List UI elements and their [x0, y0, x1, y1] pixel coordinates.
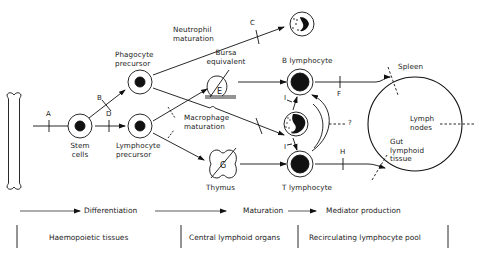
bursa-letter-e: E [217, 87, 222, 96]
lymph-nodes-label-line1: Lymph [410, 114, 434, 123]
marker-i-bottom: I [284, 143, 286, 151]
gut-lymphoid-tissue-label: Gut lymphoid tissue [390, 138, 424, 164]
spleen-label: Spleen [398, 62, 423, 71]
neutrophil-maturation-label: Neutrophil maturation [173, 25, 214, 43]
macrophage-maturation-label: Macrophage maturation [184, 113, 229, 131]
lymphocyte-label-line2: precursor [116, 150, 161, 159]
lymph-nodes-label-line2: nodes [410, 123, 434, 132]
stem-cells-label-line1: Stem [66, 141, 94, 150]
marker-c: C [250, 19, 255, 27]
axis-mediator-production: Mediator production [326, 206, 401, 215]
phagocyte-precursor-icon [128, 70, 152, 94]
i-bottom-tick [287, 144, 292, 145]
lymphocyte-precursor-icon [128, 114, 152, 138]
lymph-nodes-label: Lymph nodes [410, 114, 434, 132]
bone-icon [7, 93, 21, 190]
gut-label-line3: tissue [390, 155, 424, 164]
bursa-label-line1: Bursa [200, 48, 252, 57]
lymphocyte-label-line1: Lymphocyte [116, 141, 161, 150]
phagocyte-precursor-label: Phagocyte precursor [115, 50, 154, 68]
axis-differentiation: Differentiation [84, 206, 137, 215]
thymus-letter-g: G [220, 161, 226, 170]
stem-cells-label-line2: cells [66, 150, 94, 159]
block-thymus-tick [168, 130, 174, 138]
marker-b: B [97, 94, 102, 102]
marker-i-top: I [284, 94, 286, 102]
marker-d: D [106, 110, 111, 118]
b-lymphocyte-icon [287, 69, 313, 95]
neutrophil-icon [290, 12, 314, 36]
marker-f: F [337, 90, 341, 98]
t-lymphocyte-icon [287, 151, 313, 177]
marker-question: ? [348, 119, 352, 127]
band-haemopoietic-tissues: Haemopoietic tissues [49, 233, 128, 242]
band-central-lymphoid-organs: Central lymphoid organs [189, 233, 280, 242]
axis-maturation: Maturation [243, 206, 283, 215]
b-lymphocyte-label: B lymphocyte [282, 56, 333, 65]
macrophage-label-line1: Macrophage [184, 113, 229, 122]
macrophage-label-line2: maturation [184, 122, 229, 131]
marker-a: A [46, 110, 51, 118]
arrow-b-to-spleen [315, 77, 390, 82]
arrow-macrophage-to-b [293, 97, 297, 110]
bursa-label-line2: equivalent [200, 57, 252, 66]
neutrophil-label-line1: Neutrophil [173, 25, 214, 34]
lymphocyte-precursor-label: Lymphocyte precursor [116, 141, 161, 159]
arc-t-to-b [312, 95, 329, 151]
stem-cell-icon [68, 114, 92, 138]
phagocyte-label-line2: precursor [115, 59, 154, 68]
phagocyte-label-line1: Phagocyte [115, 50, 154, 59]
stem-cells-label: Stem cells [66, 141, 94, 159]
arrow-macrophage-to-t [293, 138, 297, 150]
marker-h: H [340, 148, 345, 156]
thymus-label: Thymus [206, 183, 235, 192]
bursa-equivalent-label: Bursa equivalent [200, 48, 252, 66]
arrow-t-to-gut [315, 164, 385, 168]
immune-cell-development-diagram: E G [0, 0, 479, 258]
i-top-tick [287, 100, 292, 102]
t-lymphocyte-label: T lymphocyte [282, 183, 332, 192]
arc-inner [313, 104, 323, 148]
band-recirculating-lymphocyte-pool: Recirculating lymphocyte pool [309, 233, 421, 242]
neutrophil-label-line2: maturation [173, 34, 214, 43]
macrophage-icon [284, 112, 308, 136]
